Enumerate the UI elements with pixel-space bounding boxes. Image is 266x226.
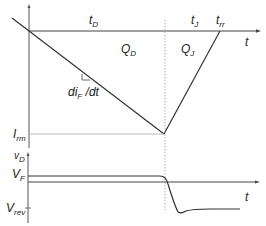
label-tJ: tJ <box>191 14 198 31</box>
label-QJ: QJ <box>181 43 194 60</box>
current-y-axis-arrow-icon <box>28 4 31 8</box>
label-tD: tD <box>89 14 98 31</box>
label-t-lower: t <box>245 191 248 203</box>
voltage-y-axis-arrow-icon <box>27 152 30 156</box>
label-vD: vD <box>14 150 25 166</box>
label-trr: trr <box>216 14 225 31</box>
time-axis-lower-arrow-icon <box>255 180 260 183</box>
label-VF: VF <box>12 168 25 185</box>
label-Irm: Irm <box>13 128 26 145</box>
label-Vrev: Vrev <box>6 202 25 219</box>
reverse-recovery-diagram: tD tJ trr t QD QJ diF /dt Irm vD VF Vrev… <box>0 0 266 226</box>
label-slope: diF /dt <box>68 86 99 103</box>
diagram-canvas <box>0 0 266 226</box>
falling-current-line <box>12 18 164 134</box>
label-t-upper: t <box>245 36 248 48</box>
label-QD: QD <box>121 43 136 60</box>
time-axis-upper-arrow-icon <box>256 29 261 33</box>
